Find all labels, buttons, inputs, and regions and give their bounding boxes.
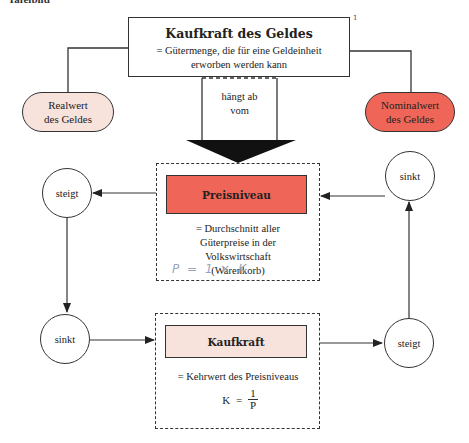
top-box-definition-line2: erworben werden kann [129, 58, 349, 72]
nominalwert-line1: Nominalwert [381, 98, 439, 112]
formula-fraction: 1 P [248, 388, 258, 411]
depends-on-line1: hängt ab [202, 90, 277, 104]
preisniveau-title-box: Preisniveau [166, 175, 307, 214]
realwert-line2: des Geldes [44, 112, 92, 126]
circle-sinkt-left: sinkt [40, 314, 90, 364]
footnote-mark: 1 [353, 14, 357, 22]
realwert-pill: Realwert des Geldes [22, 92, 114, 132]
formula-lhs: K [222, 394, 230, 406]
circle-steigt-left: steigt [42, 168, 92, 218]
formula-equals: = [236, 394, 242, 406]
kaufkraft-des-geldes-box: Kaufkraft des Geldes = Gütermenge, die f… [128, 17, 350, 77]
top-box-definition-line1: = Gütermenge, die für eine Geldeinheit [129, 44, 349, 58]
formula-denominator: P [250, 400, 256, 411]
page-label: Tafelbild [8, 0, 50, 5]
handwritten-note: P = 1 × K [172, 262, 248, 276]
kaufkraft-description: = Kehrwert des Preisniveaus [158, 370, 318, 384]
kaufkraft-formula: K = 1 P [200, 388, 280, 411]
nominalwert-line2: des Geldes [381, 112, 439, 126]
nominalwert-pill: Nominalwert des Geldes [365, 92, 455, 132]
big-down-arrow-icon [186, 140, 296, 163]
preisniveau-desc-line: = Durchschnitt aller [160, 222, 316, 236]
realwert-line1: Realwert [44, 98, 92, 112]
preisniveau-desc-line: Güterpreise in der [160, 236, 316, 250]
depends-on-line2: vom [202, 104, 277, 118]
top-box-title: Kaufkraft des Geldes [129, 26, 349, 41]
depends-on-label: hängt ab vom [202, 78, 277, 140]
circle-sinkt-right: sinkt [385, 151, 435, 201]
circle-steigt-right: steigt [384, 318, 434, 368]
kaufkraft-title-box: Kaufkraft [165, 325, 307, 358]
